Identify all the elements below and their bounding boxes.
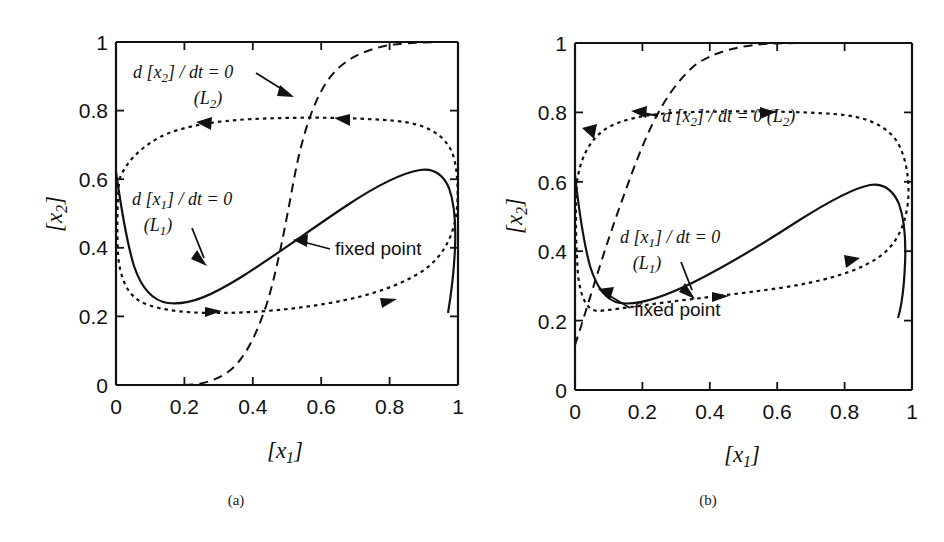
b-l1-sub-annotation: (L1) [633,253,662,276]
b-fixed-point-label: fixed point [634,299,721,320]
b-xtick-08: 0.8 [830,400,859,423]
a-l2-annotation: d [x2] / dt = 0 [133,62,233,85]
b-xtick-06: 0.6 [763,400,792,423]
a-yaxis-label: [x2] [42,196,70,232]
a-ytick-04: 0.4 [79,236,109,259]
a-ytick-1: 1 [96,31,108,54]
a-trajectory-arrow-top-right [334,114,350,126]
a-fixed-point-label: fixed point [335,238,422,259]
a-ytick-02: 0.2 [79,305,108,328]
a-ytick-06: 0.6 [79,168,108,191]
b-ytick-04: 0.4 [538,240,568,263]
b-trajectory-arrow-right-lower [844,255,860,268]
figure-panel-a: 0 0.2 0.4 0.6 0.8 1 0 0.2 0.4 0.6 0.8 1 … [0,0,472,542]
a-ytick-0: 0 [96,374,108,397]
b-ytick-02: 0.2 [538,310,567,333]
b-trajectory-arrow-upper-left [582,124,597,139]
a-xtick-02: 0.2 [170,395,199,418]
b-xtick-0: 0 [569,400,581,423]
a-nullcline-l2 [184,42,458,385]
b-fixed-point-head [598,287,614,300]
a-l1-sub-annotation: (L1) [144,215,173,238]
a-xaxis-label: [x1] [267,438,303,466]
a-xtick-1: 1 [452,395,464,418]
panel-b-caption: (b) [472,492,944,509]
a-l2-pointer-head [277,85,294,97]
b-yaxis-label: [x2] [502,198,530,234]
a-xtick-08: 0.8 [375,395,404,418]
a-xtick-04: 0.4 [238,395,268,418]
b-limit-cycle-trajectory [576,111,909,311]
a-trajectory-arrow-bottom-right [380,298,397,308]
b-ytick-08: 0.8 [538,101,567,124]
b-xtick-1: 1 [906,400,918,423]
plot-b-svg: 0 0.2 0.4 0.6 0.8 1 0 0.2 0.4 0.6 0.8 1 … [472,0,944,542]
a-ytick-08: 0.8 [79,99,108,122]
figure-panel-b: 0 0.2 0.4 0.6 0.8 1 0 0.2 0.4 0.6 0.8 1 … [472,0,944,542]
b-ytick-1: 1 [555,32,567,55]
a-trajectory-arrow-top-left [196,117,212,130]
panel-a-caption: (a) [0,492,472,509]
plot-a-svg: 0 0.2 0.4 0.6 0.8 1 0 0.2 0.4 0.6 0.8 1 … [0,0,472,542]
plot-b-axes [575,43,912,390]
a-l1-pointer-head [191,250,207,266]
b-l2-annotation: d [x2] / dt = 0 (L2) [662,106,795,129]
a-l2-sub-annotation: (L2) [194,88,223,111]
a-l1-annotation: d [x1] / dt = 0 [132,189,232,212]
b-xaxis-label: [x1] [724,442,760,470]
b-nullcline-l2 [575,43,912,345]
b-ytick-06: 0.6 [538,171,567,194]
b-xtick-04: 0.4 [695,400,725,423]
a-xtick-0: 0 [110,395,122,418]
b-l1-annotation: d [x1] / dt = 0 [620,227,720,250]
b-xtick-02: 0.2 [628,400,657,423]
b-ytick-0: 0 [555,379,567,402]
a-xtick-06: 0.6 [307,395,336,418]
